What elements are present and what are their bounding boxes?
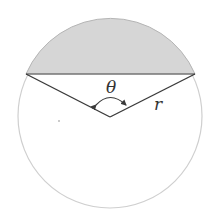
stray-dot	[58, 120, 60, 122]
shaded-segment	[26, 18, 195, 74]
angle-label: θ	[106, 77, 116, 97]
radius-label: r	[154, 94, 163, 114]
segment-diagram: θ r	[0, 0, 218, 211]
